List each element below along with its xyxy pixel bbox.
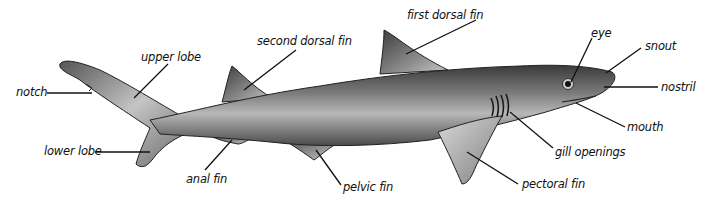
label-eye: eye [591,28,611,40]
label-first-dorsal-fin: first dorsal fin [407,10,483,22]
label-pectoral-fin: pectoral fin [522,179,585,191]
first-dorsal-fin [380,30,448,74]
label-mouth: mouth [627,122,663,134]
label-lower-lobe: lower lobe [44,146,102,158]
label-nostril: nostril [661,82,696,94]
label-upper-lobe: upper lobe [141,52,201,64]
shark-anatomy-diagram: first dorsal fin second dorsal fin upper… [0,0,707,208]
label-second-dorsal-fin: second dorsal fin [257,36,352,48]
shark-body [150,65,615,145]
label-snout: snout [645,41,676,53]
label-notch: notch [16,87,47,99]
label-anal-fin: anal fin [186,174,227,186]
label-pelvic-fin: pelvic fin [343,182,393,194]
label-gill-openings: gill openings [555,147,625,159]
